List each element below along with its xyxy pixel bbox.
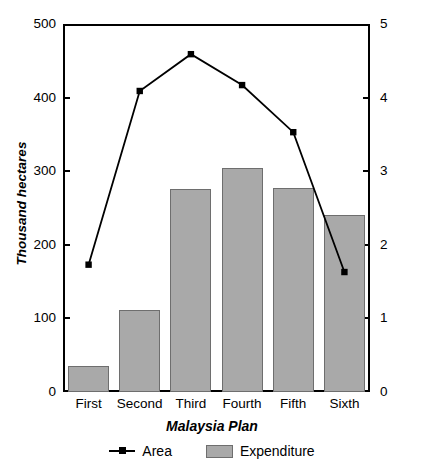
bar-0[interactable] bbox=[68, 366, 109, 392]
left-tick-mark-3 bbox=[63, 170, 70, 172]
x-tick-label-5: Sixth bbox=[304, 396, 384, 411]
left-tick-label-1: 100 bbox=[20, 312, 56, 326]
left-tick-mark-1 bbox=[63, 317, 70, 319]
left-tick-mark-4 bbox=[63, 97, 70, 99]
bar-4[interactable] bbox=[273, 188, 314, 392]
left-tick-label-4: 400 bbox=[20, 91, 56, 105]
bar-1[interactable] bbox=[119, 310, 160, 392]
legend-item-expenditure[interactable]: Expenditure bbox=[206, 443, 315, 459]
legend-label-expenditure: Expenditure bbox=[240, 443, 315, 459]
left-tick-label-2: 200 bbox=[20, 238, 56, 252]
legend-label-area: Area bbox=[142, 443, 172, 459]
line-marker-icon bbox=[109, 446, 135, 456]
right-tick-label-5: 5 bbox=[380, 17, 404, 31]
chart-legend: Area Expenditure bbox=[0, 443, 424, 459]
bar-2[interactable] bbox=[170, 189, 211, 392]
left-tick-label-3: 300 bbox=[20, 164, 56, 178]
bar-swatch-icon bbox=[206, 445, 233, 458]
right-tick-label-3: 3 bbox=[380, 164, 404, 178]
chart-container: Thousand hectares Billion RM (1978) Mala… bbox=[0, 0, 424, 471]
x-axis-title: Malaysia Plan bbox=[0, 418, 424, 434]
left-tick-mark-2 bbox=[63, 244, 70, 246]
bar-5[interactable] bbox=[324, 215, 365, 392]
left-tick-label-5: 500 bbox=[20, 17, 56, 31]
bar-3[interactable] bbox=[222, 168, 263, 392]
right-tick-mark-3 bbox=[363, 170, 370, 172]
right-tick-mark-4 bbox=[363, 97, 370, 99]
legend-item-area[interactable]: Area bbox=[109, 443, 172, 459]
right-tick-label-1: 1 bbox=[380, 312, 404, 326]
right-tick-label-4: 4 bbox=[380, 91, 404, 105]
right-tick-label-2: 2 bbox=[380, 238, 404, 252]
